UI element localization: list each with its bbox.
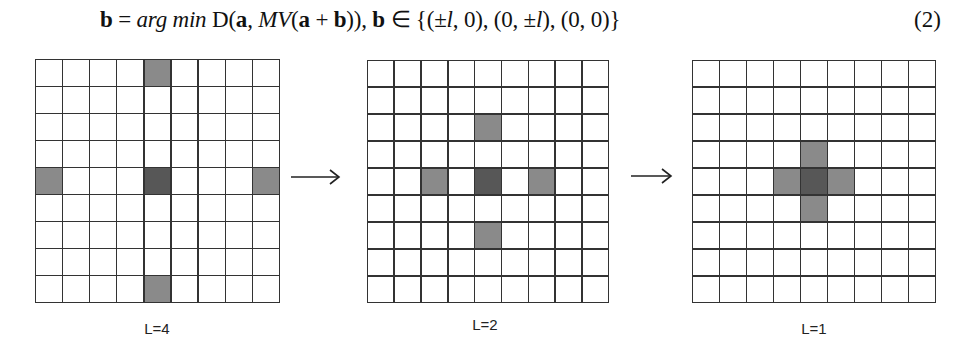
grid-cell-candidate <box>475 115 500 140</box>
grid-cell <box>36 195 62 221</box>
grid-cell <box>502 169 527 194</box>
grid-cell <box>720 277 746 302</box>
grid-cell <box>199 249 225 275</box>
grid-cell <box>693 250 719 275</box>
grid-cell <box>395 88 420 113</box>
grid-cell <box>747 115 773 140</box>
grid-cell <box>828 223 854 248</box>
grid-cell <box>199 168 225 194</box>
grid-cell <box>199 195 225 221</box>
grid-cell <box>583 115 608 140</box>
grid-cell <box>449 88 474 113</box>
grid-cell <box>774 115 800 140</box>
label-l4: L=4 <box>127 320 187 337</box>
symbol-a: a <box>299 7 310 32</box>
grid-cell <box>422 115 447 140</box>
grid-cell <box>774 88 800 113</box>
grid-cell <box>583 196 608 221</box>
grid-cell <box>199 141 225 167</box>
grid-cell <box>882 61 908 86</box>
grid-cell <box>226 249 252 275</box>
paren: )), <box>346 7 372 32</box>
grid-cell <box>502 142 527 167</box>
grid-cell <box>226 60 252 86</box>
grid-cell <box>253 249 279 275</box>
grid-cell <box>556 223 581 248</box>
grid-cell <box>253 222 279 248</box>
grid-cell <box>422 223 447 248</box>
grid-cell <box>90 168 116 194</box>
grid-cell <box>395 223 420 248</box>
grid-cell <box>63 114 89 140</box>
grid-cell <box>747 223 773 248</box>
grid-cell <box>36 87 62 113</box>
grid-cell <box>502 250 527 275</box>
arrow-right-icon <box>290 167 342 187</box>
plus: + <box>310 7 334 32</box>
grid-cell <box>502 277 527 302</box>
grid-cell <box>529 196 554 221</box>
grid-cell <box>720 250 746 275</box>
equation-body: b = arg min D(a, MV(a + b)), b ∈ {(±l, 0… <box>100 6 620 33</box>
grid-cell <box>909 277 935 302</box>
grid-cell <box>693 142 719 167</box>
grid-cell <box>774 61 800 86</box>
grid-cell <box>395 115 420 140</box>
grid-cell <box>199 87 225 113</box>
grid-cell <box>475 196 500 221</box>
grid-cell <box>720 88 746 113</box>
grid-cell <box>395 277 420 302</box>
grid-cell <box>801 223 827 248</box>
grid-cell <box>774 223 800 248</box>
symbol-b: b <box>100 7 113 32</box>
grid-cell <box>172 141 198 167</box>
grid-cell <box>502 223 527 248</box>
grid-cell <box>226 141 252 167</box>
grid-cell <box>199 276 225 302</box>
grid-cell <box>226 222 252 248</box>
grid-cell <box>583 223 608 248</box>
grid-cell <box>253 276 279 302</box>
grid-cell <box>90 276 116 302</box>
grid-cell <box>145 114 171 140</box>
grid-cell <box>747 277 773 302</box>
grid-cell <box>422 277 447 302</box>
grid-cell <box>253 60 279 86</box>
grid-cell <box>909 250 935 275</box>
grid-cell <box>199 114 225 140</box>
set-open: ∈ {(± <box>385 7 447 32</box>
grid-cell-candidate <box>36 168 62 194</box>
grid-cell <box>226 168 252 194</box>
grid-cell <box>368 277 393 302</box>
grid-cell-candidate <box>145 60 171 86</box>
grid-cell <box>502 88 527 113</box>
grid-cell <box>475 61 500 86</box>
grid-cell <box>449 61 474 86</box>
symbol-b: b <box>372 7 385 32</box>
grid-cell <box>90 222 116 248</box>
grid-cell <box>422 196 447 221</box>
grid-cell-candidate <box>801 142 827 167</box>
grid-cell <box>395 61 420 86</box>
grid-cell <box>63 276 89 302</box>
grid-cell <box>90 114 116 140</box>
grid-cell <box>747 169 773 194</box>
grid-cell <box>422 250 447 275</box>
grid-cell <box>855 142 881 167</box>
grid-cell <box>172 60 198 86</box>
grid-cell <box>855 223 881 248</box>
grid-cell <box>368 250 393 275</box>
grid-cell <box>693 196 719 221</box>
grid-cell <box>801 250 827 275</box>
grid-cell <box>145 87 171 113</box>
grid-cell <box>449 115 474 140</box>
symbol-a: a <box>236 7 247 32</box>
grid-cell <box>117 249 143 275</box>
grid-cell <box>145 222 171 248</box>
grid-cell <box>909 223 935 248</box>
grid-cell <box>720 115 746 140</box>
grid-cell <box>774 250 800 275</box>
grid-cell <box>63 195 89 221</box>
grid-cell <box>117 114 143 140</box>
grid-cell <box>747 196 773 221</box>
